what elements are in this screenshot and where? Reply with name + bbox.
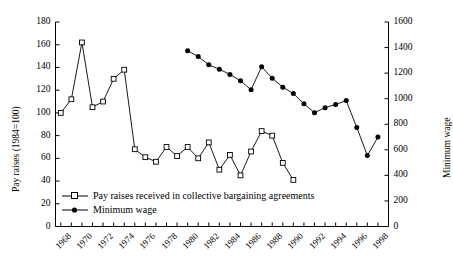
chart-container: Pay raises (1984=100) Minimum wage 02040… [0,0,453,272]
y-axis-right-tick-label: 600 [394,144,424,154]
legend-label-minimum-wage: Minimum wage [93,203,157,217]
y-axis-right-tick-label: 1400 [394,42,424,52]
y-axis-left-tick-label: 80 [25,130,51,140]
y-axis-left-ticks [56,22,60,227]
y-axis-left-tick-label: 180 [25,16,51,26]
filled-circle-marker-icon [62,205,88,215]
y-axis-left-tick-label: 20 [25,198,51,208]
y-axis-right-tick-label: 800 [394,118,424,128]
legend-item-minimum-wage: Minimum wage [62,203,314,217]
y-axis-right-tick-label: 400 [394,169,424,179]
y-axis-left-tick-label: 40 [25,175,51,185]
y-axis-left-tick-label: 140 [25,61,51,71]
y-axis-left-title: Pay raises (1984=100) [11,106,21,192]
legend-item-pay-raises: Pay raises received in collective bargai… [62,189,314,203]
chart-plot-area [0,0,453,272]
series-minimum-wage [185,48,380,158]
legend-label-pay-raises: Pay raises received in collective bargai… [93,189,314,203]
y-axis-left-tick-label: 100 [25,107,51,117]
y-axis-right-title: Minimum wage [442,118,452,178]
y-axis-right-ticks [385,22,389,227]
y-axis-left-tick-label: 0 [25,221,51,231]
series-pay-raises [58,40,295,182]
y-axis-right-tick-label: 1200 [394,67,424,77]
chart-legend: Pay raises received in collective bargai… [62,189,314,217]
y-axis-right-tick-label: 1000 [394,93,424,103]
y-axis-right-tick-label: 200 [394,195,424,205]
y-axis-right-tick-label: 1600 [394,16,424,26]
y-axis-left-tick-label: 60 [25,152,51,162]
y-axis-left-tick-label: 120 [25,84,51,94]
x-axis-ticks [61,223,378,227]
y-axis-right-tick-label: 0 [394,221,424,231]
y-axis-left-tick-label: 160 [25,39,51,49]
open-square-marker-icon [62,191,88,201]
